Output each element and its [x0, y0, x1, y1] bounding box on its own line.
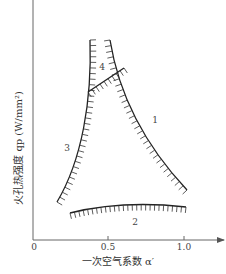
curve-label-1: 1 — [152, 115, 158, 125]
x-axis-label: 一次空气系数 α′ — [82, 253, 154, 268]
x-tick-label-0.5: 0.5 — [101, 242, 115, 252]
curve-label-2: 2 — [132, 217, 138, 227]
curve-4 — [88, 68, 124, 92]
curve-label-3: 3 — [64, 143, 70, 153]
x-tick-label-1.0: 1.0 — [177, 242, 191, 252]
curve-label-4: 4 — [99, 62, 105, 72]
x-tick-label-0: 0 — [31, 242, 37, 252]
chart-canvas — [0, 0, 226, 274]
y-axis-label: 火孔热强度 qp (W/mm²) — [10, 91, 25, 205]
hatch-marks — [57, 40, 187, 219]
curve-3 — [57, 40, 90, 202]
curve-1 — [110, 40, 187, 190]
